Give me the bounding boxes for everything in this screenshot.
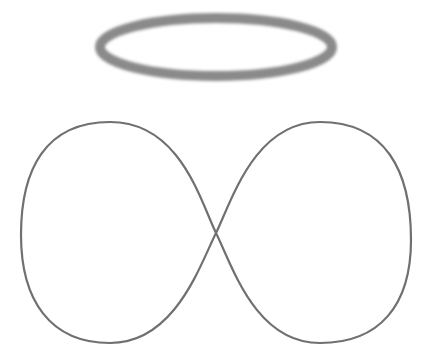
halo-infinity-illustration <box>0 0 433 364</box>
background <box>0 0 433 364</box>
